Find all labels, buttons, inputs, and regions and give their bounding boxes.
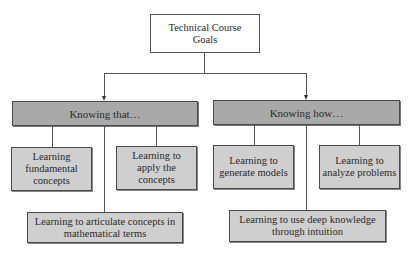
connector-root-horizontal [104,73,307,74]
connector-right-2 [306,125,307,210]
leaf-label: Learning to articulate concepts in mathe… [30,216,180,240]
connector-left-3 [156,126,157,146]
connector-to-knowing-how [306,73,307,96]
connector-left-1 [52,126,53,147]
leaf-label: Learning to generate models [215,155,293,179]
leaf-label: Learning fundamental concepts [21,151,83,187]
branch-label: Knowing how… [270,107,344,119]
connector-root-down [204,53,205,73]
leaf-learning-to-use-deep-knowledge: Learning to use deep knowledge through i… [229,210,386,242]
connector-to-knowing-that [104,73,105,97]
connector-left-2 [104,126,105,212]
leaf-learning-to-analyze-problems: Learning to analyze problems [319,145,400,189]
branch-knowing-that: Knowing that… [12,101,198,126]
leaf-learning-to-apply-concepts: Learning to apply the concepts [116,146,197,190]
leaf-learning-to-articulate-concepts: Learning to articulate concepts in mathe… [27,212,183,243]
leaf-learning-fundamental-concepts: Learning fundamental concepts [11,147,92,191]
leaf-label: Learning to use deep knowledge through i… [233,214,383,238]
root-node-label: Technical Course Goals [165,22,245,46]
leaf-label: Learning to apply the concepts [129,150,185,186]
leaf-learning-to-generate-models: Learning to generate models [213,145,294,189]
branch-knowing-how: Knowing how… [213,100,400,125]
connector-right-3 [359,125,360,145]
branch-label: Knowing that… [69,108,140,120]
leaf-label: Learning to analyze problems [320,155,399,179]
root-node-technical-course-goals: Technical Course Goals [150,14,260,53]
connector-right-1 [254,125,255,145]
